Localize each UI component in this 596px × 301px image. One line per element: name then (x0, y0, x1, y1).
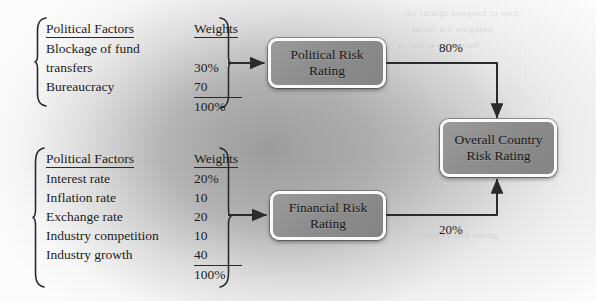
factor-name: Industry competition (46, 226, 159, 245)
factor-name: Bureaucracy (46, 77, 114, 96)
node-financial-risk-rating[interactable]: Financial Risk Rating (270, 191, 386, 240)
factor-weight: 70 (194, 77, 208, 96)
table-row: Blockage of fund (46, 39, 246, 58)
table-header-row: Political Factors Weights (46, 150, 246, 169)
ghost-text-2: factor are weighted (412, 24, 493, 34)
factor-name: Interest rate (46, 169, 110, 188)
factor-weight: 10 (194, 188, 208, 207)
table-row: Bureaucracy 70 (46, 77, 246, 96)
table-row: Industry growth 40 (46, 245, 246, 264)
political-factors-table: Political Factors Weights Blockage of fu… (46, 20, 246, 116)
financial-factors-table: Political Factors Weights Interest rate … (46, 150, 246, 284)
factor-name: Inflation rate (46, 188, 116, 207)
ghost-text-1: the ratings assigned to each (404, 8, 520, 18)
factor-weight: 20 (194, 207, 208, 226)
table-row: Interest rate 20% (46, 169, 246, 188)
edge-financial-to-overall (386, 179, 497, 215)
table-row: Exchange rate 20 (46, 207, 246, 226)
node-line-2: Rating (290, 63, 363, 79)
header-weights: Weights (194, 150, 238, 168)
edge-political-to-overall (386, 63, 497, 118)
node-political-risk-rating[interactable]: Political Risk Rating (268, 38, 386, 88)
factor-weight: 40 (194, 245, 208, 264)
factor-weight: 20% (194, 169, 219, 188)
factor-name: Blockage of fund (46, 39, 140, 58)
factor-weight: 30% (194, 58, 219, 77)
node-line-1: Political Risk (290, 47, 363, 63)
factor-name: Exchange rate (46, 207, 123, 226)
table-total-row: 100% (46, 97, 246, 116)
factor-weight: 10 (194, 226, 208, 245)
node-line-1: Financial Risk (289, 200, 367, 216)
factor-name: Industry growth (46, 245, 133, 264)
node-overall-country-risk-rating[interactable]: Overall Country Risk Rating (440, 119, 557, 177)
edge-label-20-percent: 20% (439, 222, 463, 238)
table-row: transfers 30% (46, 58, 246, 77)
edge-label-80-percent: 80% (439, 40, 463, 56)
table-row: Inflation rate 10 (46, 188, 246, 207)
header-factors: Political Factors (46, 150, 134, 168)
table-row: Industry competition 10 (46, 226, 246, 245)
weights-total: 100% (194, 265, 226, 284)
node-line-2: Risk Rating (454, 148, 542, 164)
diagram-canvas: the ratings assigned to each factor are … (0, 0, 596, 301)
node-line-1: Overall Country (454, 132, 542, 148)
financial-table-left-bracket (31, 146, 47, 290)
header-factors: Political Factors (46, 20, 134, 38)
header-weights: Weights (194, 20, 238, 38)
table-total-row: 100% (46, 265, 246, 284)
factor-name: transfers (46, 58, 92, 77)
weights-total: 100% (194, 97, 226, 116)
node-line-2: Rating (289, 216, 367, 232)
table-header-row: Political Factors Weights (46, 20, 246, 39)
